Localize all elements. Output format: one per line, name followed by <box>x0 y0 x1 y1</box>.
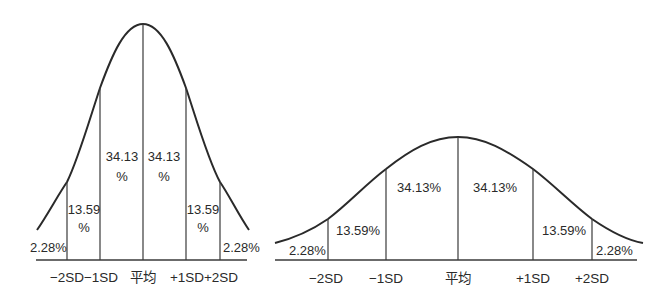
left-band-p1-pct: 34.13 <box>148 149 181 164</box>
left-axis-label-plus-2sd: +2SD <box>204 270 238 285</box>
left-band-m1-pct: 34.13 <box>106 149 139 164</box>
left-band-p2-unit: % <box>197 220 209 235</box>
left-tail-left-pct: 2.28% <box>30 240 67 255</box>
left-band-m2-unit: % <box>78 220 90 235</box>
left-band-m2-pct: 13.59 <box>68 202 101 217</box>
right-band-p2-pct: 13.59% <box>542 223 587 238</box>
left-band-p2-pct: 13.59 <box>187 202 220 217</box>
right-band-m2-pct: 13.59% <box>336 223 381 238</box>
left-band-p1-unit: % <box>158 169 170 184</box>
right-axis-label-minus-1sd: −1SD <box>369 271 403 286</box>
left-axis-label-mean: 平均 <box>130 270 156 285</box>
left-axis-label-plus-1sd: +1SD <box>170 270 204 285</box>
narrow-distribution-chart: 2.28% 13.59 % 34.13 % 34.13 % 13.59 % 2.… <box>30 24 260 285</box>
right-axis-label-plus-2sd: +2SD <box>575 271 609 286</box>
left-band-m1-unit: % <box>116 169 128 184</box>
right-axis-label-plus-1sd: +1SD <box>516 271 550 286</box>
normal-distribution-diagram: 2.28% 13.59 % 34.13 % 34.13 % 13.59 % 2.… <box>0 0 671 302</box>
right-tail-left-pct: 2.28% <box>289 243 326 258</box>
right-band-p1-pct: 34.13% <box>473 180 518 195</box>
left-axis-label-minus-1sd: −1SD <box>84 270 118 285</box>
right-axis-label-mean: 平均 <box>445 271 471 286</box>
wide-distribution-chart: 2.28% 13.59% 34.13% 34.13% 13.59% 2.28% … <box>275 137 643 286</box>
right-bell-curve <box>275 137 643 243</box>
right-tail-right-pct: 2.28% <box>596 243 633 258</box>
right-axis-label-minus-2sd: −2SD <box>309 271 343 286</box>
right-band-m1-pct: 34.13% <box>397 180 442 195</box>
left-axis-label-minus-2sd: −2SD <box>50 270 84 285</box>
left-tail-right-pct: 2.28% <box>223 240 260 255</box>
